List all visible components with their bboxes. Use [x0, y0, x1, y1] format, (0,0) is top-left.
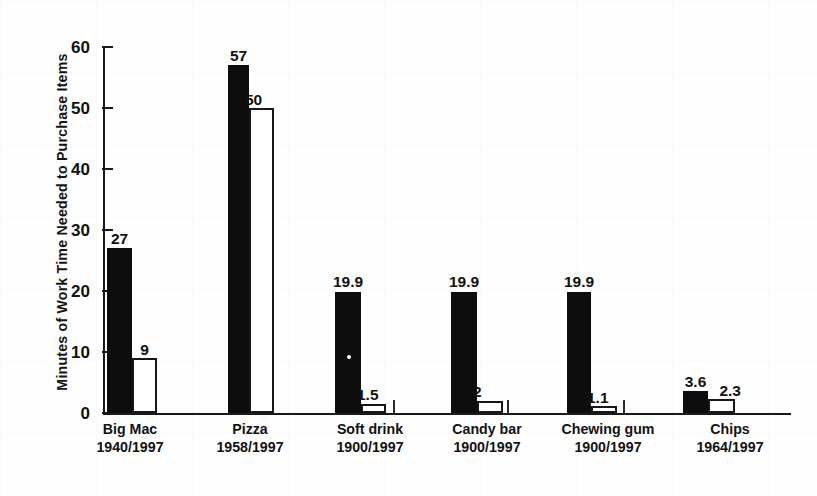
bar-chart-figure: Minutes of Work Time Needed to Purchase … [0, 0, 817, 496]
bar-value-soft-drink-1997: 1.5 [357, 387, 379, 403]
bar-group-big-mac: 27 9 [107, 47, 163, 413]
x-category-name-chips: Chips [655, 420, 805, 438]
x-category-name-big-mac: Big Mac [60, 420, 200, 438]
bar-value-big-mac-1940: 27 [111, 231, 128, 247]
bar-chewing-gum-1997[interactable]: 1.1 [591, 406, 617, 413]
bar-group-pizza: 57 50 [228, 47, 284, 413]
plot-area: 0 10 20 30 40 50 60 27 [103, 47, 791, 413]
bar-big-mac-1997[interactable]: 9 [132, 358, 157, 413]
y-tick-label-20: 20 [71, 283, 90, 300]
bar-value-candy-bar-1900: 19.9 [449, 274, 479, 290]
bar-value-chewing-gum-1900: 19.9 [564, 274, 594, 290]
y-tick-label-10: 10 [71, 344, 90, 361]
bar-big-mac-1940[interactable]: 27 [107, 248, 132, 413]
x-category-years-big-mac: 1940/1997 [60, 438, 200, 456]
x-category-label-big-mac: Big Mac 1940/1997 [60, 420, 200, 456]
bar-group-chips: 3.6 2.3 [683, 47, 739, 413]
x-category-label-chips: Chips 1964/1997 [655, 420, 805, 456]
bar-candy-bar-1997[interactable]: 2 [477, 401, 503, 413]
scan-speck-artifact [347, 355, 351, 359]
x-axis-line [103, 413, 791, 415]
bar-group-candy-bar: 19.9 2 [451, 47, 507, 413]
bar-value-chips-1997: 2.3 [719, 383, 741, 399]
bar-pizza-1997[interactable]: 50 [249, 108, 274, 413]
bar-value-candy-bar-1997: 2 [473, 384, 482, 400]
bar-value-chips-1964: 3.6 [685, 374, 707, 390]
y-tick-label-40: 40 [71, 161, 90, 178]
x-category-years-chips: 1964/1997 [655, 438, 805, 456]
bar-group-soft-drink: 19.9 1.5 [335, 47, 391, 413]
x-separator-tick-2 [393, 400, 395, 413]
x-separator-tick-3 [507, 400, 509, 413]
y-tick-label-60: 60 [71, 39, 90, 56]
bar-group-chewing-gum: 19.9 1.1 [567, 47, 623, 413]
bar-chips-1964[interactable]: 3.6 [683, 391, 708, 413]
bar-value-big-mac-1997: 9 [140, 342, 149, 358]
bar-value-chewing-gum-1997: 1.1 [587, 390, 609, 406]
x-separator-tick-4 [623, 400, 625, 413]
y-tick-label-0: 0 [81, 405, 90, 422]
bar-value-soft-drink-1900: 19.9 [333, 274, 363, 290]
y-tick-label-30: 30 [71, 222, 90, 239]
bar-value-pizza-1997: 50 [245, 92, 262, 108]
bar-soft-drink-1997[interactable]: 1.5 [361, 404, 386, 413]
bar-value-pizza-1958: 57 [230, 48, 247, 64]
bar-chips-1997[interactable]: 2.3 [708, 399, 735, 413]
y-tick-label-50: 50 [71, 100, 90, 117]
bar-pizza-1958[interactable]: 57 [228, 65, 249, 413]
